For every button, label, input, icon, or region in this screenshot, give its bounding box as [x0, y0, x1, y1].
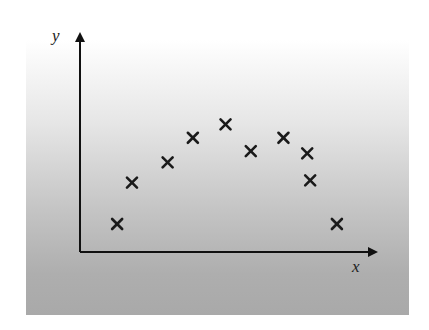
data-point-marker [221, 119, 231, 129]
data-point-marker [302, 148, 312, 158]
data-point-marker [127, 178, 137, 188]
data-point-marker [246, 146, 256, 156]
data-point-marker [188, 133, 198, 143]
data-point-marker [332, 219, 342, 229]
data-point-marker [278, 133, 288, 143]
data-points [112, 119, 342, 229]
data-point-marker [163, 157, 173, 167]
scatter-plot [0, 0, 429, 330]
data-point-marker [305, 175, 315, 185]
x-axis-label: x [352, 258, 360, 275]
data-point-marker [112, 219, 122, 229]
y-axis-label: y [52, 27, 60, 44]
